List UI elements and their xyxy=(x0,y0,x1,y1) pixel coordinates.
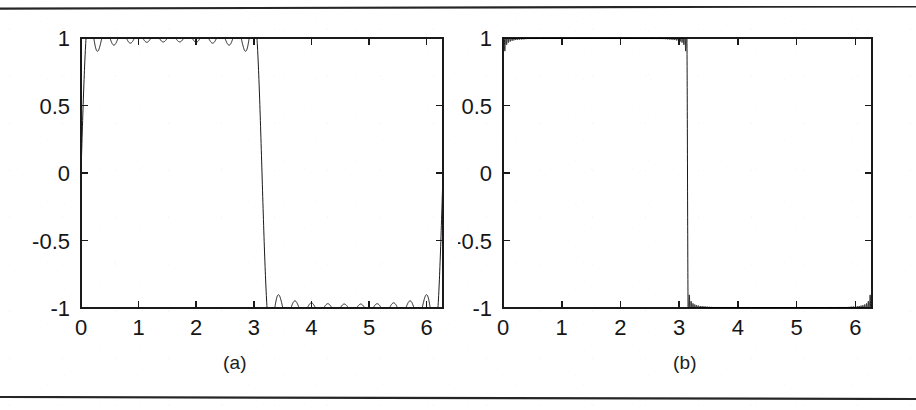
plot-area-b: 012345610.50-0.5-1 xyxy=(458,14,916,354)
y-axis-tick-label: 1 xyxy=(58,26,70,51)
x-axis-tick-label: 6 xyxy=(421,315,433,340)
x-axis-tick-label: 5 xyxy=(791,315,803,340)
y-axis-tick-label: 0.5 xyxy=(39,94,70,119)
data-series-line xyxy=(81,38,443,308)
x-axis-tick-label: 0 xyxy=(75,315,87,340)
x-axis-tick-label: 4 xyxy=(305,315,317,340)
page-rule-bottom xyxy=(0,396,916,400)
y-axis-tick-label: 1 xyxy=(480,26,492,51)
x-axis-tick-label: 6 xyxy=(849,315,861,340)
data-series-line xyxy=(503,38,872,308)
y-axis-tick-label: -0.5 xyxy=(32,229,70,254)
x-axis-tick-label: 3 xyxy=(673,315,685,340)
panel-caption-a: (a) xyxy=(6,352,464,374)
x-axis-tick-label: 2 xyxy=(190,315,202,340)
x-axis-tick-label: 2 xyxy=(614,315,626,340)
y-axis-tick-label: -1 xyxy=(472,296,492,321)
y-axis-tick-label: 0 xyxy=(480,161,492,186)
page-rule-top xyxy=(0,6,916,10)
x-axis-tick-label: 3 xyxy=(248,315,260,340)
plot-panel-a: 012345610.50-0.5-1 (a) xyxy=(0,14,458,394)
y-axis-tick-label: -0.5 xyxy=(458,229,492,254)
x-axis-tick-label: 1 xyxy=(556,315,568,340)
x-axis-tick-label: 4 xyxy=(732,315,744,340)
y-axis-tick-label: 0 xyxy=(58,161,70,186)
y-axis-tick-label: 0.5 xyxy=(461,94,492,119)
x-axis-tick-label: 0 xyxy=(497,315,509,340)
y-axis-tick-label: -1 xyxy=(50,296,70,321)
x-axis-tick-label: 5 xyxy=(363,315,375,340)
plot-area-a: 012345610.50-0.5-1 xyxy=(0,14,458,354)
x-axis-tick-label: 1 xyxy=(132,315,144,340)
plot-panel-b: 012345610.50-0.5-1 (b) xyxy=(458,14,916,394)
figure-container: 012345610.50-0.5-1 (a) 012345610.50-0.5-… xyxy=(0,14,916,394)
panel-caption-b: (b) xyxy=(456,352,914,374)
